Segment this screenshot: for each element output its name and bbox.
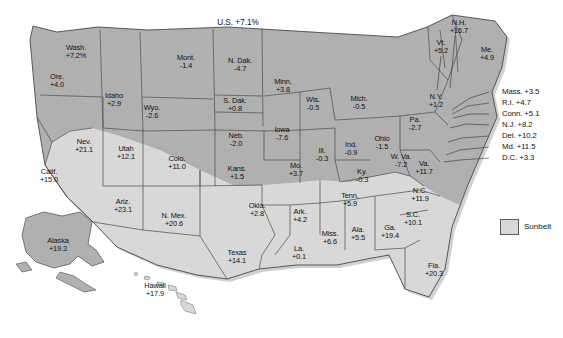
alaska-inset [16, 212, 104, 292]
legend-label-sunbelt: Sunbelt [524, 222, 551, 231]
sunbelt-swatch [500, 219, 519, 235]
us-total-label: U.S. +7.1% [217, 18, 259, 27]
us-map-svg [0, 0, 563, 338]
map-figure: U.S. +7.1% Wash. +7.2%Ore. +4.0Idaho +2.… [0, 0, 563, 338]
hawaii-inset [134, 272, 196, 314]
